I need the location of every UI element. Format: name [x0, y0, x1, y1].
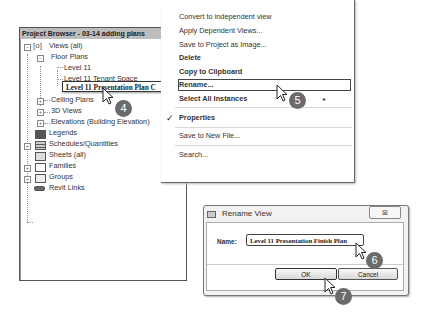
tree-line: [27, 54, 28, 222]
groups-icon: [35, 174, 46, 183]
menu-item-properties[interactable]: Properties: [179, 113, 215, 123]
tree-line: [57, 70, 58, 86]
mouse-cursor-icon: [102, 87, 116, 105]
expand-elevations-toggle[interactable]: +: [37, 120, 44, 127]
views-icon: [o]: [33, 41, 42, 51]
tree-line: [57, 79, 63, 80]
tree-line: [27, 222, 33, 223]
mouse-cursor-icon: [276, 84, 290, 102]
tree-item-legends[interactable]: Legends: [49, 128, 77, 138]
expand-schedules-toggle[interactable]: +: [24, 143, 31, 150]
dialog-close-button[interactable]: ⊠: [369, 206, 401, 219]
menu-item-save-to-project-as-image[interactable]: Save to Project as Image...: [179, 40, 267, 50]
collapse-floor-plans-toggle[interactable]: −: [37, 55, 44, 62]
tree-item-elevations[interactable]: Elevations (Building Elevation): [51, 117, 150, 127]
menu-item-copy-to-clipboard[interactable]: Copy to Clipboard: [179, 67, 242, 77]
tree-item-families[interactable]: Families: [49, 161, 76, 171]
menu-item-select-all-instances[interactable]: Select All Instances: [179, 94, 247, 104]
name-label: Name:: [217, 238, 237, 245]
tree-line: [44, 123, 50, 124]
menu-item-delete[interactable]: Delete: [179, 53, 201, 63]
tree-item-floor-plans[interactable]: Floor Plans: [51, 52, 88, 62]
families-icon: [35, 163, 46, 172]
menu-separator: [175, 107, 352, 108]
menu-item-apply-dependent-views[interactable]: Apply Dependent Views...: [179, 26, 262, 36]
expand-families-toggle[interactable]: +: [24, 165, 31, 172]
revit-links-icon: [34, 186, 45, 191]
step-badge-6: 6: [366, 252, 383, 269]
submenu-arrow-icon: ▸: [323, 95, 326, 102]
dialog-app-icon: [207, 211, 216, 218]
expand-groups-toggle[interactable]: +: [24, 176, 31, 183]
tree-item-revit-links[interactable]: Revit Links: [49, 183, 85, 193]
expand-3d-views-toggle[interactable]: +: [37, 109, 44, 116]
legends-icon: [35, 130, 46, 139]
menu-item-convert-to-independent-view[interactable]: Convert to independent view: [179, 12, 272, 22]
cancel-button[interactable]: Cancel: [338, 268, 398, 280]
schedules-icon: [35, 141, 46, 150]
name-input[interactable]: Level 11 Presentation Finish Plan: [246, 234, 364, 246]
menu-separator: [175, 127, 352, 128]
tree-item-3d-views[interactable]: 3D Views: [51, 106, 82, 116]
tree-item-ceiling-plans[interactable]: Ceiling Plans: [51, 95, 94, 105]
step-badge-4: 4: [115, 100, 132, 117]
step-badge-7: 7: [335, 288, 352, 305]
tree-item-level-11[interactable]: Level 11: [64, 63, 91, 73]
tree-item-schedules[interactable]: Schedules/Quantities: [49, 139, 118, 149]
step-badge-5: 5: [289, 92, 306, 109]
tree-line: [44, 100, 50, 101]
menu-separator: [175, 145, 352, 146]
menu-item-save-to-new-file[interactable]: Save to New File...: [179, 131, 240, 141]
menu-item-search[interactable]: Search...: [179, 150, 208, 160]
checkmark-icon: ✓: [166, 113, 174, 123]
tree-line: [57, 67, 63, 68]
tree-item-views-all[interactable]: Views (all): [49, 41, 83, 51]
tree-item-sheets[interactable]: Sheets (all): [49, 150, 86, 160]
tree-item-groups[interactable]: Groups: [49, 172, 73, 182]
tree-line: [44, 112, 50, 113]
sheets-icon: [35, 152, 46, 161]
collapse-views-toggle[interactable]: −: [24, 44, 31, 51]
dialog-title: Rename View: [222, 209, 272, 218]
expand-ceiling-plans-toggle[interactable]: +: [37, 98, 44, 105]
menu-item-rename[interactable]: Rename...: [179, 80, 213, 90]
